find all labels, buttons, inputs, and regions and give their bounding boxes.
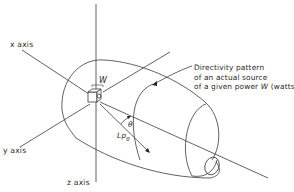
y-axis-label-text: y axis [3,146,26,155]
caption-line-1: Directivity pattern [194,63,294,73]
caption-line-3-suffix: (watts) [268,82,294,91]
pointer-line-upper [103,52,170,92]
z-axis-label-text: z axis [67,178,90,187]
theta-text: θ [128,120,133,129]
y-axis-label: y axis [3,146,26,155]
level-main-text: Lp [117,131,126,140]
level-label: Lpθ [117,131,130,142]
level-sub-text: θ [126,136,130,142]
x-axis-label-text: x axis [10,40,33,49]
pattern-bottom-edge [76,138,219,178]
theta-label: θ [128,120,133,129]
source-power-text: W [99,76,107,85]
directivity-diagram [0,0,294,192]
caption-arrowhead [152,81,157,86]
radius-line [100,104,148,151]
section-1 [133,84,153,160]
caption-line-3: of a given power W (watts) [194,82,294,92]
source-cube-front [88,92,97,102]
pattern-caption: Directivity pattern of an actual source … [194,63,294,92]
caption-pointer [154,66,192,84]
w-bracket [92,85,103,87]
caption-line-2: of an actual source [194,73,294,83]
x-axis-line [22,50,92,96]
source-power-label: W [99,76,107,85]
section-2 [185,104,217,176]
theta-arrowhead [127,116,131,119]
caption-line-3-prefix: of a given power [194,82,261,91]
z-axis-label: z axis [67,178,90,187]
x-axis-label: x axis [10,40,33,49]
